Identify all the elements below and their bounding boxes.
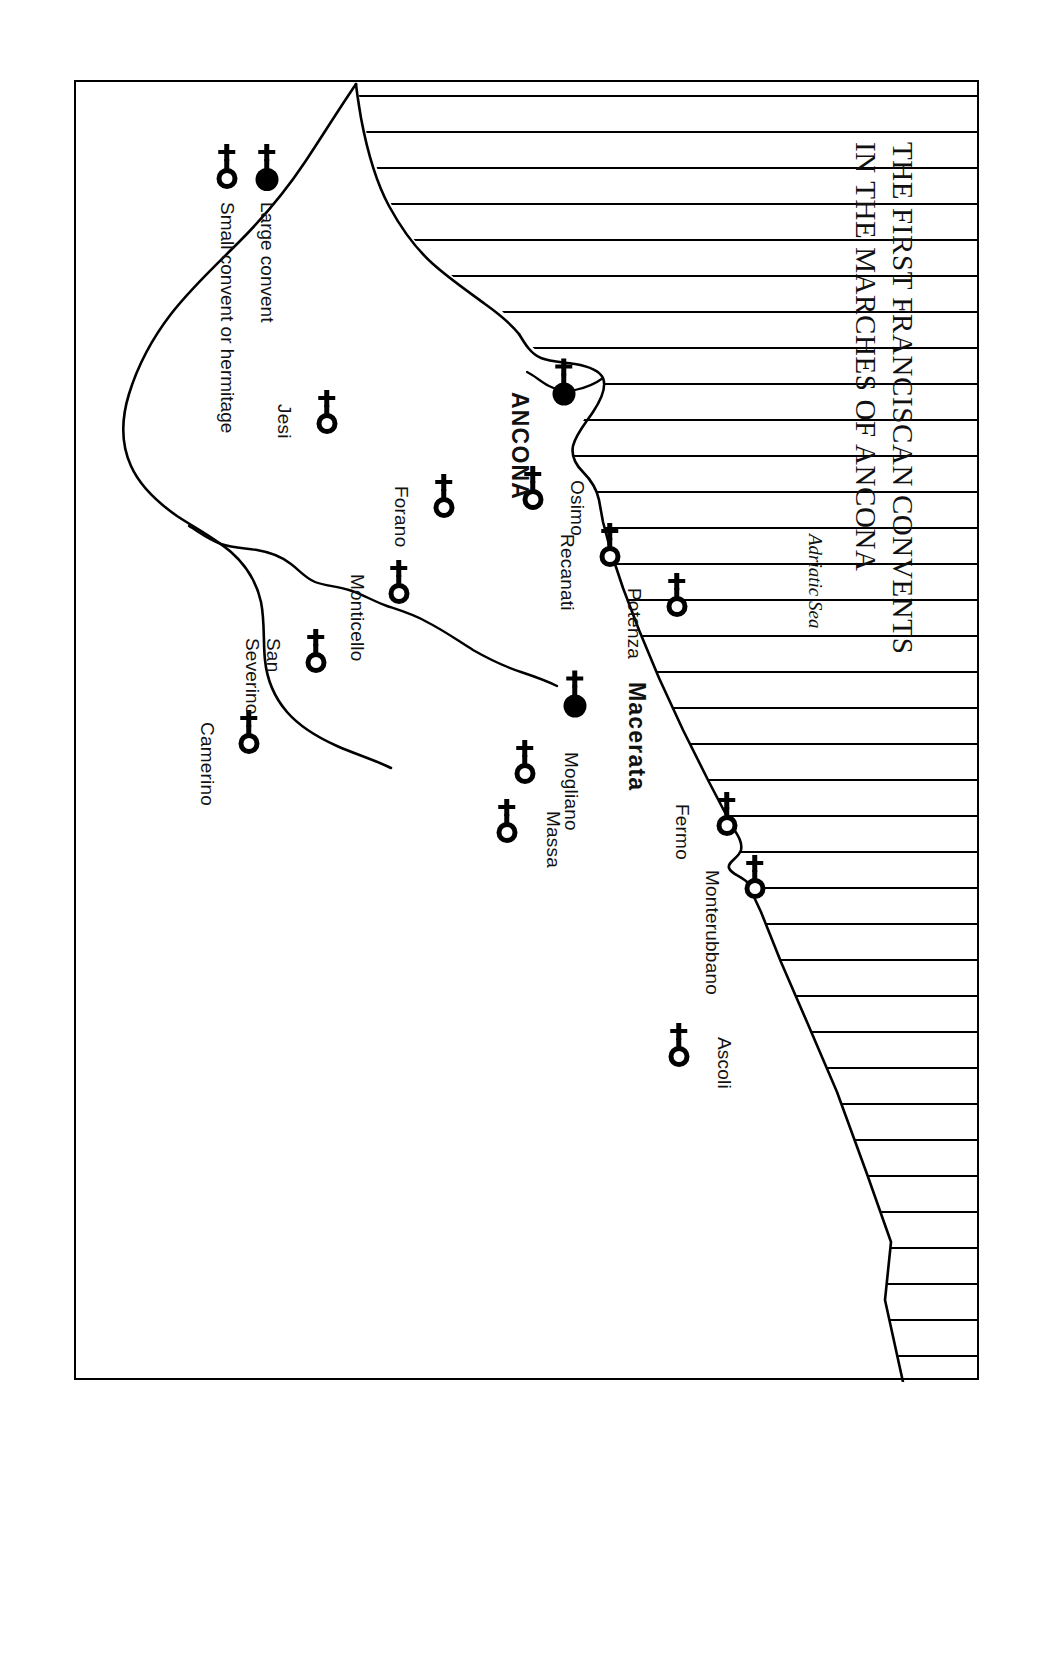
map-marker-monterubbano: [742, 855, 768, 899]
town-label-san-severino: San Severino: [241, 638, 283, 715]
small-convent-symbol-icon: [214, 144, 240, 194]
marker-stem: [562, 373, 567, 383]
town-label-massa: Massa: [542, 811, 563, 868]
map-marker-jesi: [314, 390, 340, 434]
regional-border: [356, 84, 519, 334]
cross-icon: [608, 523, 613, 540]
legend-item-small-convent: Small convent or hermitage: [207, 144, 247, 433]
town-label-potenza: Potenza: [623, 588, 644, 659]
figure-page: THE FIRST FRANCISCAN CONVENTS IN THE MAR…: [0, 0, 1054, 1667]
town-label-monterubbano: Monterubbano: [701, 870, 722, 995]
legend-item-large-convent: Large convent: [247, 144, 287, 433]
town-label-camerino: Camerino: [196, 722, 217, 806]
cross-icon: [314, 629, 319, 646]
convent-dot-icon: [667, 596, 688, 617]
town-label-fermo: Fermo: [671, 804, 692, 860]
map-marker-mogliano: [512, 740, 538, 784]
town-label-macerata: Macerata: [624, 682, 649, 791]
map-legend: Large convent Small convent or hermitage: [207, 144, 287, 433]
map-marker-monticello: [386, 560, 412, 604]
convent-dot-icon: [669, 1046, 690, 1067]
convent-dot-icon: [389, 583, 410, 604]
legend-label-large-convent: Large convent: [256, 202, 278, 322]
convent-dot-icon: [745, 878, 766, 899]
map-marker-forano: [431, 474, 457, 518]
cross-icon: [573, 670, 578, 687]
sea-label: Adriatic Sea: [803, 534, 827, 628]
cross-icon: [675, 573, 680, 590]
cross-icon: [562, 358, 567, 375]
map-marker-massa: [494, 799, 520, 843]
cross-icon: [523, 740, 528, 757]
cross-icon: [753, 855, 758, 872]
cross-icon: [677, 1023, 682, 1040]
convent-dot-icon: [434, 497, 455, 518]
map-marker-macerata: [562, 670, 588, 717]
town-label-osimo: Osimo: [566, 480, 587, 536]
map-marker-recanati: [597, 523, 623, 567]
large-convent-symbol-icon: [254, 144, 280, 194]
map-marker-camerino: [236, 710, 262, 754]
rotated-figure-stage: THE FIRST FRANCISCAN CONVENTS IN THE MAR…: [37, 64, 1017, 1604]
convent-dot-icon: [306, 652, 327, 673]
convent-dot-icon: [239, 733, 260, 754]
town-label-recanati: Recanati: [556, 534, 577, 611]
figure-border: THE FIRST FRANCISCAN CONVENTS IN THE MAR…: [74, 80, 979, 1380]
map-marker-ancona: [551, 358, 577, 405]
cross-icon: [325, 390, 330, 407]
convent-dot-icon: [497, 822, 518, 843]
convent-dot-icon: [317, 413, 338, 434]
convent-dot-icon: [553, 382, 576, 405]
cross-icon: [505, 799, 510, 816]
map-marker-ascoli: [666, 1023, 692, 1067]
map-marker-fermo: [714, 792, 740, 836]
cross-icon: [725, 792, 730, 809]
convent-dot-icon: [600, 546, 621, 567]
cross-icon: [442, 474, 447, 491]
town-label-ascoli: Ascoli: [713, 1037, 734, 1089]
marker-stem: [573, 685, 578, 695]
town-label-monticello: Monticello: [346, 574, 367, 662]
legend-label-small-convent: Small convent or hermitage: [216, 202, 238, 433]
map-marker-san-severino: [303, 629, 329, 673]
cross-icon: [397, 560, 402, 577]
town-label-ancona: ANCONA: [507, 392, 532, 500]
convent-dot-icon: [564, 694, 587, 717]
convent-dot-icon: [515, 763, 536, 784]
town-label-forano: Forano: [390, 486, 411, 547]
page-title: THE FIRST FRANCISCAN CONVENTS IN THE MAR…: [847, 142, 921, 782]
convent-dot-icon: [717, 815, 738, 836]
map-marker-potenza: [664, 573, 690, 617]
